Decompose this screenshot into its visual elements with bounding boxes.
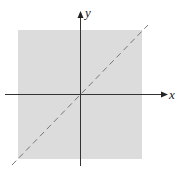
diagram-canvas — [0, 0, 176, 174]
x-axis-label: x — [169, 88, 175, 101]
y-axis-arrow-icon — [78, 11, 84, 18]
x-axis-arrow-icon — [161, 92, 168, 98]
y-axis-label: y — [85, 6, 91, 19]
